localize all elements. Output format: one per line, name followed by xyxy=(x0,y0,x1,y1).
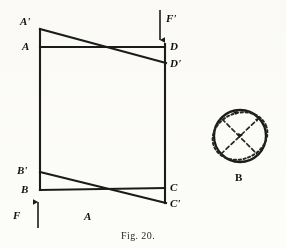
vertex-label-c-prime: C' xyxy=(170,198,180,209)
diagram-b-label: B xyxy=(235,172,242,183)
vertex-label-b-prime: B' xyxy=(17,165,27,176)
sheared-outline xyxy=(40,29,166,203)
figure-20-container: A' A D D' B' B C C' F' F A B Fig. 20. xyxy=(0,0,286,248)
vertex-label-d-prime: D' xyxy=(170,58,181,69)
vertex-label-a: A xyxy=(22,41,29,52)
force-label-f-prime: F' xyxy=(166,13,176,24)
force-label-f: F xyxy=(13,210,20,221)
figure-caption: Fig. 20. xyxy=(121,231,155,241)
vertex-label-c: C xyxy=(170,182,177,193)
vertex-label-b: B xyxy=(21,184,28,195)
vertex-label-a-prime: A' xyxy=(20,16,30,27)
axis-arrowhead-upper-right xyxy=(255,118,259,122)
figure-drawing-canvas xyxy=(0,0,286,248)
circle-ellipse-diagram xyxy=(205,104,274,168)
vertex-label-d: D xyxy=(170,41,178,52)
diagram-a-label: A xyxy=(84,211,91,222)
